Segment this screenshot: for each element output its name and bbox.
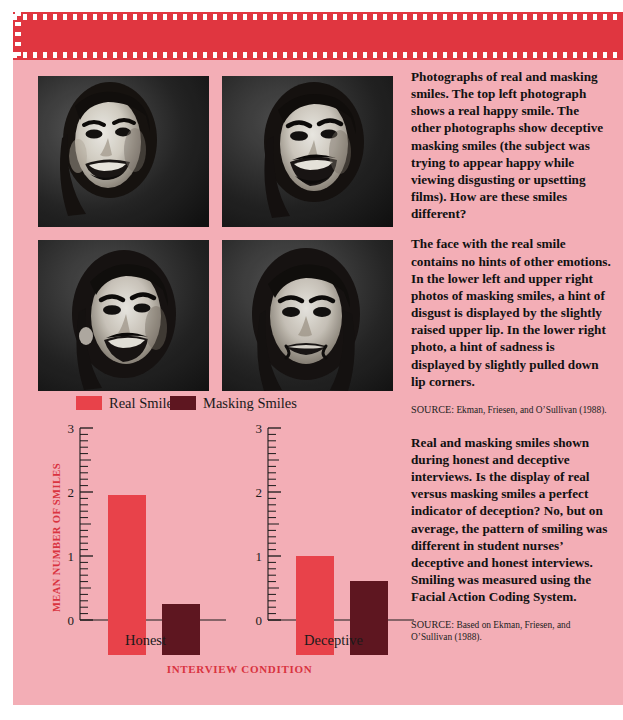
chart-panel-honest: 3 2 1 0 Honest: [58, 420, 233, 665]
perforation-strip-top: [13, 14, 623, 20]
source-chart: SOURCE: Based on Ekman, Friesen, and O’S…: [411, 618, 611, 643]
source-label-photographs: SOURCE:: [411, 404, 454, 415]
photo-grid: [38, 76, 393, 391]
ytick-label-2-deceptive: 2: [246, 485, 262, 501]
ytick-label-3-deceptive: 3: [246, 421, 262, 437]
caption-chart: Real and masking smiles shown during hon…: [411, 434, 611, 606]
ytick-label-0-honest: 0: [58, 613, 74, 629]
ytick-label-2-honest: 2: [58, 485, 74, 501]
ytick-label-1-deceptive: 1: [246, 549, 262, 565]
chart-panel-deceptive: 3 2 1 0 Deceptive: [246, 420, 421, 665]
legend-swatch-masking-smiles: [170, 396, 196, 410]
source-text-photographs: Ekman, Friesen, and O’Sullivan (1988).: [454, 405, 607, 415]
bar-chart: MEAN NUMBER OF SMILES 3 2 1 0 Honest: [13, 420, 413, 680]
perforation-strip-left: [15, 12, 21, 60]
source-label-chart: SOURCE:: [411, 619, 454, 630]
x-category-label-deceptive: Deceptive: [246, 632, 421, 649]
photo-bottom-left-masking-smile: [38, 240, 209, 391]
x-category-label-honest: Honest: [58, 632, 233, 649]
ytick-label-3-honest: 3: [58, 421, 74, 437]
caption-analysis: The face with the real smile contains no…: [411, 235, 611, 389]
legend-swatch-real-smiles: [76, 396, 102, 410]
photo-bottom-right-masking-smile: [222, 240, 393, 391]
chart-legend: Real Smiles Masking Smiles: [63, 393, 383, 415]
decorative-top-band: [13, 12, 623, 60]
ytick-label-1-honest: 1: [58, 549, 74, 565]
legend-label-real-smiles: Real Smiles: [109, 395, 179, 412]
figure-page: Real Smiles Masking Smiles MEAN NUMBER O…: [0, 0, 623, 720]
caption-column: Photographs of real and masking smiles. …: [411, 68, 611, 662]
figure-panel: Real Smiles Masking Smiles MEAN NUMBER O…: [13, 60, 623, 705]
legend-item-real-smiles: Real Smiles: [76, 393, 179, 413]
source-photographs: SOURCE: Ekman, Friesen, and O’Sullivan (…: [411, 403, 611, 416]
photo-top-left-real-happy-smile: [38, 76, 209, 227]
ytick-label-0-deceptive: 0: [246, 613, 262, 629]
legend-label-masking-smiles: Masking Smiles: [203, 395, 297, 412]
bar-honest-real-smiles: [108, 495, 146, 655]
x-axis-title: INTERVIEW CONDITION: [58, 663, 421, 675]
perforation-strip-bottom: [13, 52, 623, 58]
photo-top-right-masking-smile: [222, 76, 393, 227]
caption-photographs: Photographs of real and masking smiles. …: [411, 68, 611, 222]
legend-item-masking-smiles: Masking Smiles: [170, 393, 297, 413]
